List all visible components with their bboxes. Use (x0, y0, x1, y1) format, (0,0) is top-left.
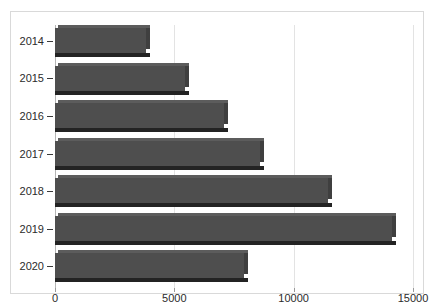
y-tick-dash-2014 (47, 41, 53, 42)
bar-row (55, 213, 413, 251)
gridline-15000 (413, 25, 414, 288)
y-tick-label-2016: 2016 (2, 110, 44, 122)
bar-side-face (224, 100, 228, 124)
y-tick-label-2017: 2017 (2, 148, 44, 160)
bar-2017[interactable] (55, 141, 260, 166)
bar-shadow-face (55, 91, 189, 95)
y-tick-label-2019: 2019 (2, 223, 44, 235)
bar-2018[interactable] (55, 178, 328, 203)
bar-front-face (55, 103, 224, 128)
bar-row (55, 100, 413, 138)
y-tick-label-2015: 2015 (2, 72, 44, 84)
y-tick-label-2014: 2014 (2, 35, 44, 47)
bar-row (55, 175, 413, 213)
x-tick-label-0: 0 (52, 292, 58, 304)
bar-shadow-face (55, 241, 396, 245)
bar-front-face (55, 28, 146, 53)
bar-side-face (260, 138, 264, 162)
bar-front-face (55, 253, 244, 278)
bar-side-face (392, 213, 396, 237)
x-tick-label-10000: 10000 (278, 292, 309, 304)
bar-row (55, 25, 413, 63)
x-tick-label-5000: 5000 (162, 292, 186, 304)
y-tick-dash-2019 (47, 229, 53, 230)
bar-front-face (55, 216, 392, 241)
y-tick-label-2020: 2020 (2, 260, 44, 272)
plot-area (55, 25, 413, 288)
bar-side-face (244, 250, 248, 274)
bar-row (55, 63, 413, 101)
y-tick-dash-2015 (47, 78, 53, 79)
bar-side-face (146, 25, 150, 49)
bar-side-face (328, 175, 332, 199)
bar-shadow-face (55, 166, 264, 170)
bar-2015[interactable] (55, 66, 185, 91)
bar-2019[interactable] (55, 216, 392, 241)
y-tick-dash-2020 (47, 266, 53, 267)
bar-front-face (55, 178, 328, 203)
bar-2014[interactable] (55, 28, 146, 53)
y-tick-dash-2017 (47, 154, 53, 155)
bar-row (55, 138, 413, 176)
y-tick-dash-2018 (47, 191, 53, 192)
bar-chart: 2014201520162017201820192020 05000100001… (0, 0, 434, 305)
bar-front-face (55, 66, 185, 91)
bar-front-face (55, 141, 260, 166)
bar-side-face (185, 63, 189, 87)
bar-shadow-face (55, 278, 248, 282)
bar-shadow-face (55, 128, 228, 132)
y-tick-dash-2016 (47, 116, 53, 117)
bar-shadow-face (55, 203, 332, 207)
y-tick-label-2018: 2018 (2, 185, 44, 197)
x-tick-label-15000: 15000 (398, 292, 429, 304)
bar-shadow-face (55, 53, 150, 57)
bar-2016[interactable] (55, 103, 224, 128)
bar-row (55, 250, 413, 288)
bar-2020[interactable] (55, 253, 244, 278)
